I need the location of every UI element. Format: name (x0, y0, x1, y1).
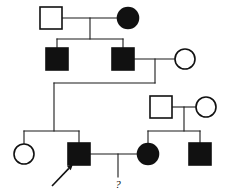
individual-III-1-female-unaffected[interactable] (14, 144, 34, 164)
individual-II-5-female-unaffected[interactable] (196, 97, 216, 117)
individual-II-4-male-unaffected[interactable] (150, 96, 172, 118)
individual-symbols-layer (14, 7, 216, 165)
pedigree-chart: ? (0, 0, 226, 195)
individual-II-2-male-affected[interactable] (112, 48, 134, 70)
individual-II-3-female-unaffected[interactable] (175, 49, 195, 69)
proband-arrow (52, 164, 73, 186)
individual-III-2-male-affected[interactable] (68, 143, 90, 165)
unknown-offspring-label: ? (115, 178, 121, 190)
individual-III-4-male-affected[interactable] (189, 143, 211, 165)
annotations-layer: ? (52, 164, 121, 190)
connector-lines-layer (24, 18, 200, 177)
pedigree-diagram: ? (0, 0, 226, 195)
individual-I-2-female-affected[interactable] (118, 8, 139, 29)
proband-arrow-shaft (52, 168, 69, 186)
individual-I-1-male-unaffected[interactable] (40, 7, 62, 29)
individual-II-1-male-affected[interactable] (46, 48, 68, 70)
individual-III-3-female-affected[interactable] (138, 144, 159, 165)
